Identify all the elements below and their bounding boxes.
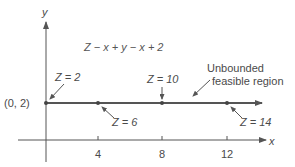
- region-label-line2: feasible region: [212, 75, 284, 87]
- point-z2: [44, 101, 48, 105]
- x-tick-label-8: 8: [159, 148, 165, 160]
- arrow-region: [193, 80, 210, 96]
- label-z14: Z = 14: [240, 116, 272, 128]
- x-tick-label-4: 4: [95, 148, 101, 160]
- point-z14: [225, 101, 229, 105]
- x-axis-label: x: [269, 135, 275, 147]
- arrow-z2: [50, 84, 64, 99]
- region-label-line1: Unbounded: [207, 62, 264, 74]
- label-z10: Z = 10: [147, 73, 179, 85]
- point-z6: [96, 101, 100, 105]
- start-point-label: (0, 2): [4, 97, 30, 109]
- objective-equation: Z − x + y − x + 2: [84, 41, 163, 53]
- y-axis-label: y: [42, 6, 48, 18]
- label-z6: Z = 6: [112, 116, 137, 128]
- label-z2: Z = 2: [55, 71, 80, 83]
- point-z10: [160, 101, 164, 105]
- x-tick-label-12: 12: [221, 148, 233, 160]
